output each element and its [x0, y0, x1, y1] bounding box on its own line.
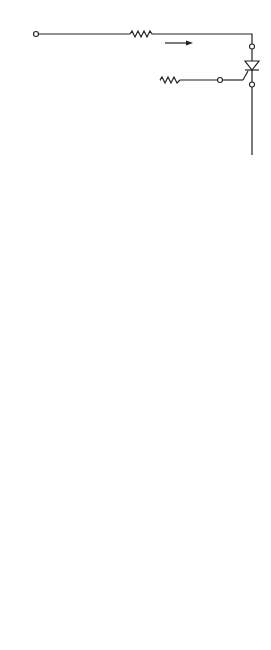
scr-thyristor-icon — [243, 49, 259, 82]
terminal-l — [34, 32, 39, 37]
resistor-rg-icon — [160, 77, 180, 83]
scr-circuit-figure — [0, 0, 271, 650]
terminal-k — [250, 82, 255, 87]
resistor-r-icon — [130, 31, 152, 37]
circuit-schematic — [0, 0, 259, 155]
terminal-a — [250, 44, 255, 49]
terminal-g — [218, 78, 223, 83]
